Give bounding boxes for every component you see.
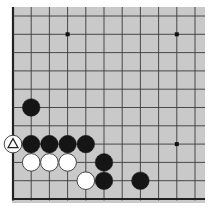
black-stone-circle <box>132 172 150 190</box>
white-stone-circle <box>22 154 40 172</box>
white-stone-circle <box>77 172 95 190</box>
black-stone-circle <box>22 99 40 117</box>
white-stone-circle <box>41 154 59 172</box>
black-stone[interactable] <box>77 135 95 153</box>
star-point <box>175 142 179 146</box>
white-stone[interactable] <box>4 135 22 153</box>
star-point <box>66 32 70 36</box>
black-stone-circle <box>95 172 113 190</box>
black-stone-circle <box>59 135 77 153</box>
black-stone-circle <box>22 135 40 153</box>
black-stone[interactable] <box>22 99 40 117</box>
white-stone[interactable] <box>59 154 77 172</box>
go-board[interactable] <box>0 0 210 210</box>
black-stone[interactable] <box>132 172 150 190</box>
black-stone[interactable] <box>95 154 113 172</box>
black-stone[interactable] <box>41 135 59 153</box>
black-stone[interactable] <box>22 135 40 153</box>
black-stone-circle <box>41 135 59 153</box>
black-stone-circle <box>95 154 113 172</box>
star-point <box>175 32 179 36</box>
black-stone-circle <box>77 135 95 153</box>
white-stone-circle <box>59 154 77 172</box>
white-stone[interactable] <box>77 172 95 190</box>
white-stone[interactable] <box>22 154 40 172</box>
black-stone[interactable] <box>95 172 113 190</box>
black-stone[interactable] <box>59 135 77 153</box>
white-stone[interactable] <box>41 154 59 172</box>
